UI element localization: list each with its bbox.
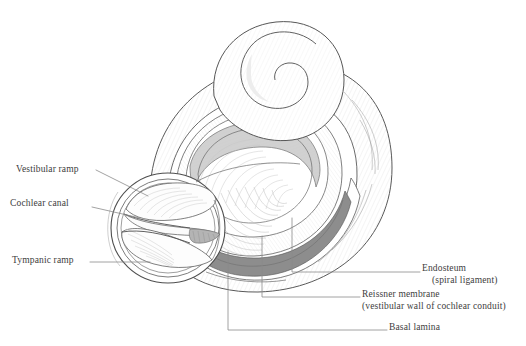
label-cochlear-canal-text: Cochlear canal: [10, 198, 69, 208]
label-cochlear-canal: Cochlear canal: [10, 198, 69, 210]
label-tympanic-ramp-text: Tympanic ramp: [12, 255, 74, 265]
label-basal-lamina: Basal lamina: [389, 322, 440, 334]
label-endosteum-text: Endosteum: [422, 263, 498, 275]
cochlea-figure: Vestibular ramp Cochlear canal Tympanic …: [0, 0, 526, 346]
label-reissner-membrane-text: Reissner membrane: [362, 289, 506, 301]
label-reissner-membrane: Reissner membrane (vestibular wall of co…: [362, 289, 506, 312]
label-basal-lamina-text: Basal lamina: [389, 322, 440, 334]
label-tympanic-ramp: Tympanic ramp: [12, 255, 74, 267]
cochlea-shell: [108, 22, 392, 292]
label-vestibular-ramp: Vestibular ramp: [16, 164, 79, 176]
label-reissner-membrane-subtext: (vestibular wall of cochlear conduit): [362, 301, 506, 313]
apex-dome-hatch: [214, 22, 344, 141]
label-endosteum: Endosteum (spiral ligament): [422, 263, 498, 286]
label-vestibular-ramp-text: Vestibular ramp: [16, 164, 79, 174]
label-endosteum-subtext: (spiral ligament): [422, 275, 498, 287]
cross-section-face: [108, 173, 225, 283]
